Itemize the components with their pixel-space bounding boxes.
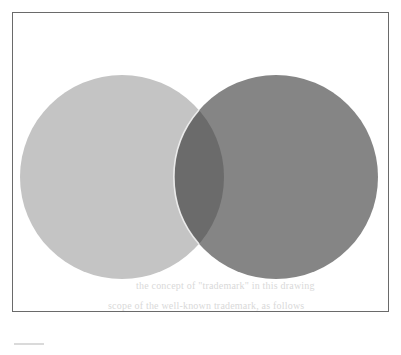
page-mark — [14, 343, 44, 345]
venn-diagram — [0, 0, 401, 355]
